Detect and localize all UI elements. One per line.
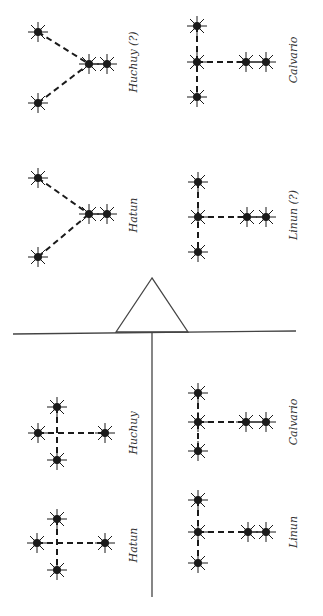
star-icon	[237, 207, 257, 227]
label-huchuy-uncertain-top: Huchuy (?)	[127, 31, 140, 92]
stars-hatun-bottom	[27, 509, 115, 580]
star-icon	[97, 54, 117, 74]
star-icon	[188, 553, 208, 573]
star-icon	[28, 93, 48, 113]
constellation-huchuy-bottom	[38, 407, 105, 460]
star-icon	[187, 52, 207, 72]
star-icon	[47, 509, 67, 529]
dashed-connector	[38, 64, 89, 103]
label-hatun-top: Hatun	[127, 198, 140, 233]
constellation-balance-diagram	[0, 0, 323, 616]
label-linun-bottom: Linun	[287, 516, 300, 548]
star-icon	[188, 412, 208, 432]
star-icon	[256, 207, 276, 227]
star-icon	[27, 533, 47, 553]
star-icon	[238, 522, 258, 542]
star-icon	[188, 242, 208, 262]
star-icon	[188, 441, 208, 461]
star-icon	[256, 522, 276, 542]
label-calvario-top: Calvario	[287, 37, 300, 84]
constellation-huchuy-q-top	[38, 32, 107, 103]
constellation-hatun-bottom	[37, 519, 105, 570]
label-hatun-bottom: Hatun	[127, 528, 140, 563]
stars-huchuy-q-top	[28, 22, 117, 113]
star-icon	[97, 204, 117, 224]
star-icon	[256, 52, 276, 72]
star-icon	[188, 172, 208, 192]
star-icon	[188, 207, 208, 227]
star-icon	[236, 52, 256, 72]
star-icon	[28, 423, 48, 443]
dashed-connector	[38, 214, 89, 257]
star-icon	[188, 522, 208, 542]
star-icon	[28, 22, 48, 42]
star-icon	[187, 87, 207, 107]
star-icon	[79, 54, 99, 74]
dashed-connector	[38, 32, 89, 64]
star-icon	[187, 16, 207, 36]
star-icon	[188, 490, 208, 510]
fulcrum-triangle	[116, 278, 188, 332]
star-icon	[188, 383, 208, 403]
star-icon	[47, 560, 67, 580]
dashed-connector	[38, 178, 89, 214]
stars-hatun-top	[28, 168, 117, 267]
star-icon	[256, 412, 276, 432]
star-icon	[95, 423, 115, 443]
star-icon	[28, 168, 48, 188]
star-icon	[28, 247, 48, 267]
star-icon	[79, 204, 99, 224]
constellation-hatun-top	[38, 178, 107, 257]
star-icon	[47, 397, 67, 417]
label-linun-uncertain-top: Linun (?)	[287, 190, 300, 240]
star-icon	[236, 412, 256, 432]
star-icon	[47, 450, 67, 470]
balance-structure	[13, 278, 296, 597]
label-calvario-bottom: Calvario	[287, 399, 300, 446]
star-icon	[95, 533, 115, 553]
label-huchuy-bottom: Huchuy	[127, 411, 140, 454]
